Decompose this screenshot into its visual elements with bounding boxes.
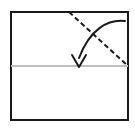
origami-fold-diagram (0, 0, 135, 129)
fold-diagram-container (0, 0, 135, 129)
